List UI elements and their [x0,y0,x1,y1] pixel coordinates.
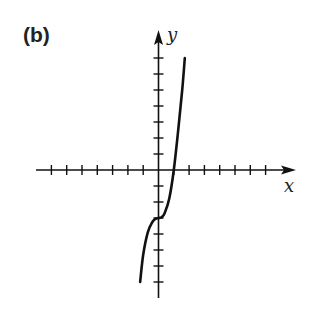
axes [36,30,296,298]
x-axis-label: x [284,175,294,196]
y-axis-label: y [166,24,178,45]
chart: x y [0,0,313,311]
